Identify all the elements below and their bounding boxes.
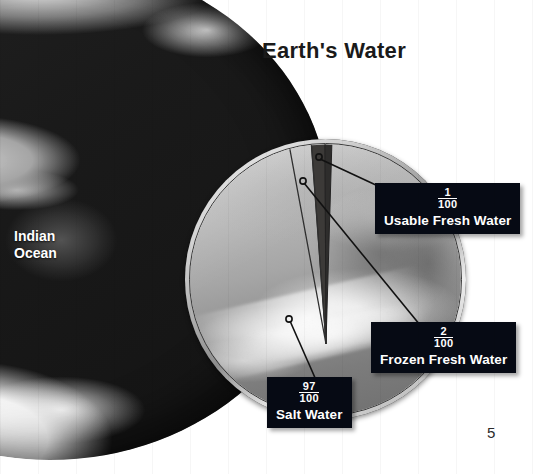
- fraction-denominator: 100: [438, 198, 458, 210]
- indian-ocean-label: Indian Ocean: [14, 228, 57, 262]
- callout-usable-fresh-water: 1 100 Usable Fresh Water: [375, 183, 520, 234]
- ocean-label-line-2: Ocean: [14, 245, 57, 262]
- callout-caption: Salt Water: [276, 407, 343, 422]
- ocean-label-line-1: Indian: [14, 228, 57, 245]
- callout-salt-water: 97 100 Salt Water: [267, 377, 352, 428]
- callout-caption: Usable Fresh Water: [384, 213, 511, 228]
- callout-frozen-fresh-water: 2 100 Frozen Fresh Water: [371, 322, 516, 373]
- page-canvas: Indian Ocean Earth's Water: [0, 0, 548, 474]
- fraction-denominator: 100: [299, 392, 319, 404]
- fraction-numerator: 1: [438, 187, 458, 198]
- fraction-numerator: 97: [299, 381, 319, 392]
- fraction-frozen-fresh-water: 2 100: [434, 326, 454, 349]
- fraction-numerator: 2: [434, 326, 454, 337]
- fraction-usable-fresh-water: 1 100: [438, 187, 458, 210]
- fraction-salt-water: 97 100: [299, 381, 319, 404]
- page-title: Earth's Water: [262, 38, 406, 64]
- page-number: 5: [487, 424, 495, 441]
- callout-caption: Frozen Fresh Water: [380, 352, 507, 367]
- fraction-denominator: 100: [434, 337, 454, 349]
